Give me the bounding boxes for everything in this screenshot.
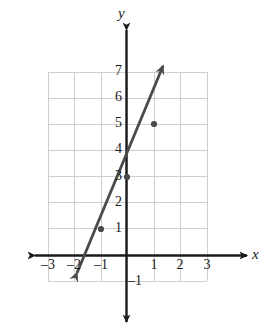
x-axis-label: x [252, 247, 259, 262]
x-tick-label: 3 [197, 258, 217, 272]
data-point [151, 121, 157, 127]
y-tick-label: 4 [104, 142, 122, 156]
data-point [124, 174, 130, 180]
y-tick-label: 5 [104, 116, 122, 130]
y-tick-label: 7 [104, 64, 122, 78]
x-tick-label: –2 [64, 258, 84, 272]
y-tick-label: 2 [104, 195, 122, 209]
x-tick-label: –1 [91, 258, 111, 272]
x-tick-label: 2 [170, 258, 190, 272]
y-tick-label: 1 [104, 221, 122, 235]
coordinate-plane-figure: x y –3 –2 –1 1 2 3 7 6 5 4 3 2 1 –1 [0, 0, 272, 330]
x-tick-label: 1 [144, 258, 164, 272]
y-axis-label: y [118, 6, 125, 21]
y-tick-label: –1 [128, 274, 146, 288]
x-tick-label: –3 [38, 258, 58, 272]
y-tick-label: 6 [104, 90, 122, 104]
y-tick-label: 3 [104, 169, 122, 183]
